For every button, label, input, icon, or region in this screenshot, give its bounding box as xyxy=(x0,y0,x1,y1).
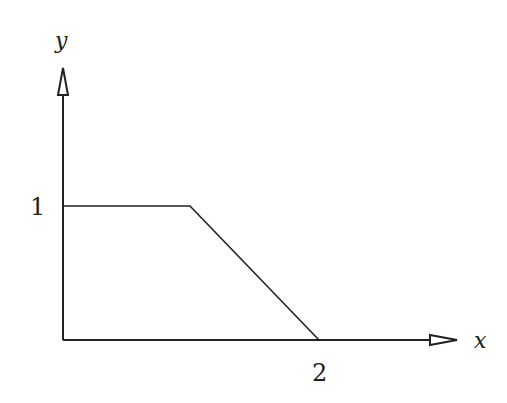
x-tick-label: 2 xyxy=(312,359,327,387)
function-line xyxy=(63,206,319,340)
y-axis-label: y xyxy=(54,28,68,53)
y-axis-arrow-icon xyxy=(58,68,68,95)
y-tick-label: 1 xyxy=(30,193,45,221)
x-axis-arrow-icon xyxy=(430,335,457,345)
chart: y x 1 2 xyxy=(0,0,507,403)
x-axis-label: x xyxy=(474,328,487,353)
